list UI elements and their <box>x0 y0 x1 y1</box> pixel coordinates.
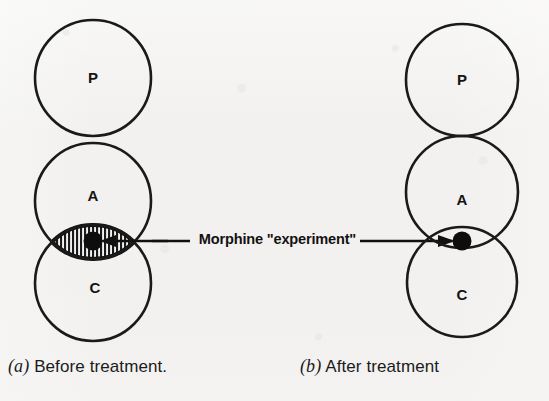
caption-after-text: After treatment <box>325 357 439 376</box>
circle-label-before-p: P <box>88 69 98 86</box>
circle-label-before-c: C <box>90 279 101 296</box>
connector-left <box>100 235 190 247</box>
caption-before-text: Before treatment. <box>34 357 167 376</box>
dot-before <box>84 232 103 251</box>
diagram-canvas: P A C P A C <box>0 0 549 401</box>
circle-label-after-p: P <box>457 71 467 88</box>
panel-before: P A C <box>35 20 151 341</box>
figure-page: P A C P A C Morphine "experiment" <box>0 0 549 401</box>
caption-before-marker: (a) <box>8 356 29 376</box>
caption-after-marker: (b) <box>300 356 321 376</box>
caption-before: (a) Before treatment. <box>8 356 167 377</box>
circle-label-before-a: A <box>88 187 99 204</box>
circle-label-after-c: C <box>457 286 468 303</box>
panel-after: P A C <box>406 24 518 337</box>
dot-after <box>453 232 472 251</box>
caption-after: (b) After treatment <box>300 356 439 377</box>
circle-label-after-a: A <box>457 191 468 208</box>
center-annotation-label: Morphine "experiment" <box>199 230 351 248</box>
